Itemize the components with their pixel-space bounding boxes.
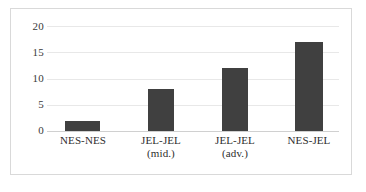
bar-nes-jel <box>295 42 323 131</box>
x-label-line-1: JEL-JEL <box>215 134 255 146</box>
x-axis-tick-label-nes-jel: NES-JEL <box>273 134 345 147</box>
bar-jel-jel-adv <box>222 68 248 131</box>
x-label-line-1: JEL-JEL <box>141 134 181 146</box>
x-label-line-1: NES-NES <box>60 134 106 146</box>
plot-area <box>47 26 339 131</box>
y-axis-tick-label: 15 <box>22 47 44 58</box>
x-label-line-2: (mid.) <box>125 147 197 160</box>
x-axis-tick-label-jel-jel-adv: JEL-JEL (adv.) <box>199 134 271 160</box>
x-label-line-2: (adv.) <box>199 147 271 160</box>
x-label-line-1: NES-JEL <box>288 134 331 146</box>
y-axis-tick-label: 0 <box>22 125 44 136</box>
bar-jel-jel-mid <box>148 89 174 131</box>
y-axis-tick-label: 20 <box>22 21 44 32</box>
y-axis-tick-label: 5 <box>22 99 44 110</box>
x-axis-tick-label-jel-jel-mid: JEL-JEL (mid.) <box>125 134 197 160</box>
y-axis: 20 15 10 5 0 <box>20 26 44 131</box>
bar-nes-nes <box>65 121 100 132</box>
y-axis-tick-label: 10 <box>22 73 44 84</box>
bar-chart-figure: 20 15 10 5 0 NES-NES JEL-JEL (mid.) JEL-… <box>0 0 366 192</box>
x-axis: NES-NES JEL-JEL (mid.) JEL-JEL (adv.) NE… <box>47 134 339 174</box>
gridline-20 <box>47 26 339 27</box>
x-axis-tick-label-nes-nes: NES-NES <box>47 134 119 147</box>
x-axis-baseline <box>47 131 339 132</box>
